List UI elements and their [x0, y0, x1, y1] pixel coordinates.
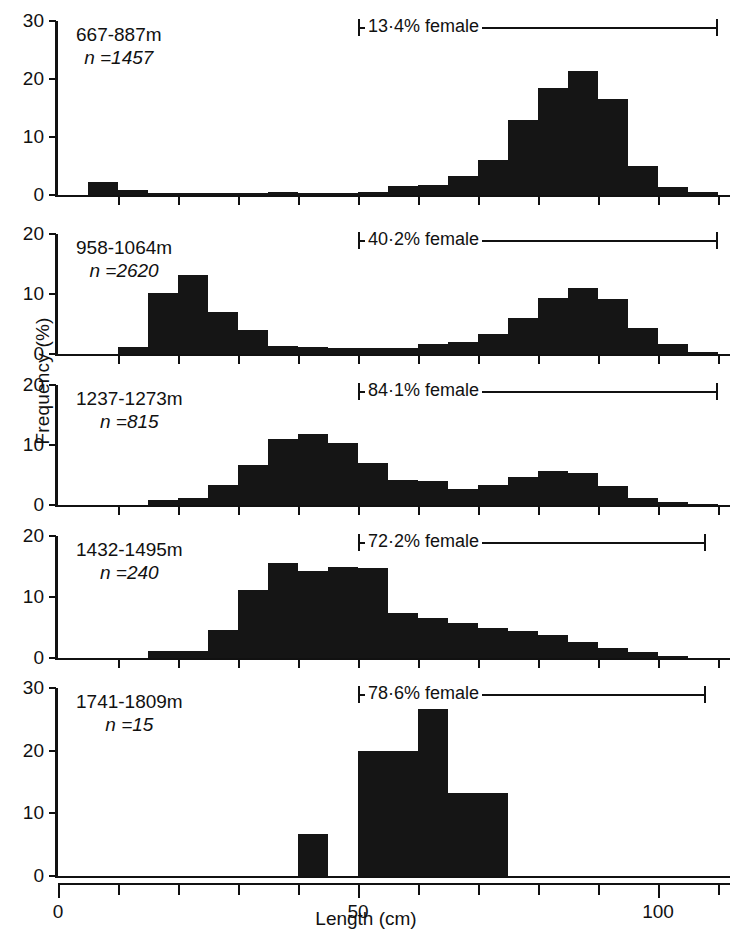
histogram-bar [478, 793, 508, 876]
histogram-bar [388, 751, 418, 876]
y-axis-tick [49, 812, 56, 814]
histogram-bar [418, 709, 448, 876]
percent-female-bracket: 78·6% female [358, 684, 706, 706]
x-axis-tick [58, 885, 60, 898]
panel-depth-label: 1741-1809mn =15 [76, 690, 183, 736]
x-axis-tick [538, 885, 540, 895]
x-axis-tick [598, 885, 600, 895]
histogram-bar [358, 751, 388, 876]
bracket-right-cap [704, 686, 706, 703]
x-axis-tick [658, 885, 660, 898]
y-axis-tick [49, 687, 56, 689]
x-axis-tick [238, 885, 240, 895]
x-axis-tick [298, 885, 300, 895]
y-axis-tick-label: 30 [0, 678, 44, 697]
x-axis-tick [718, 885, 720, 895]
y-axis-tick [49, 750, 56, 752]
depth-range-text: 1741-1809m [76, 690, 183, 713]
y-axis-tick-label: 20 [0, 741, 44, 760]
y-axis-tick-label: 0 [0, 866, 44, 885]
histogram-bar [298, 834, 328, 876]
sample-size-text: n =15 [76, 713, 183, 736]
x-axis-tick [358, 885, 360, 898]
histogram-bar [448, 793, 478, 876]
percent-female-label: 78·6% female [365, 682, 482, 705]
x-axis-tick [178, 885, 180, 895]
x-axis-tick [118, 885, 120, 895]
x-axis-title: Length (cm) [0, 908, 732, 930]
x-axis-tick [418, 885, 420, 895]
y-axis-tick [49, 875, 56, 877]
x-axis-line [58, 883, 730, 885]
length-frequency-figure: Frequency (%) 0102030667-887mn =145713·4… [0, 0, 732, 938]
y-axis-tick-label: 10 [0, 803, 44, 822]
x-axis-tick [478, 885, 480, 895]
histogram-panel: 01020301741-1809mn =1578·6% female [0, 0, 732, 938]
panel-baseline [58, 876, 730, 878]
y-axis-line [55, 688, 58, 878]
